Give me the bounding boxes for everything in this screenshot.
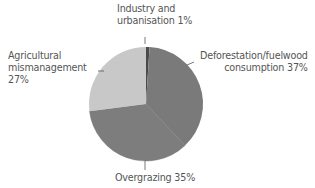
pie-slice-agricultural-mismanagement — [89, 47, 146, 111]
label-agri-line3: 27% — [8, 74, 87, 86]
label-over-line1: Overgrazing 35% — [115, 172, 195, 184]
label-agricultural: Agricultural mismanagement 27% — [8, 50, 87, 86]
label-deforestation: Deforestation/fuelwood consumption 37% — [200, 50, 308, 74]
label-industry: Industry and urbanisation 1% — [117, 3, 192, 27]
leader-defor — [187, 62, 194, 65]
label-agri-line2: mismanagement — [8, 62, 87, 74]
pie-slices — [89, 47, 203, 161]
label-defor-line2: consumption 37% — [200, 62, 308, 74]
pie-chart — [0, 0, 315, 188]
label-industry-line1: Industry and — [117, 3, 192, 15]
label-defor-line1: Deforestation/fuelwood — [200, 50, 308, 62]
label-overgrazing: Overgrazing 35% — [115, 172, 195, 184]
label-agri-line1: Agricultural — [8, 50, 87, 62]
label-industry-line2: urbanisation 1% — [117, 15, 192, 27]
